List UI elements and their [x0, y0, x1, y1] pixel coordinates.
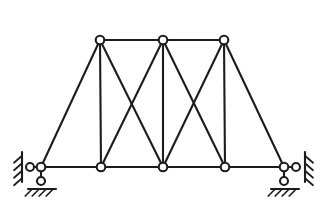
support-hatch-line: [305, 178, 313, 185]
support-hatch-line: [305, 171, 313, 178]
support-hatch-line: [305, 156, 313, 163]
truss-joint-L1: [97, 163, 106, 172]
truss-diagram-canvas: [0, 0, 329, 221]
truss-joint-RL: [26, 163, 34, 171]
support-hatch-line: [14, 163, 22, 170]
truss-joint-L2: [159, 163, 168, 172]
members-layer: [41, 40, 284, 167]
truss-joint-PR: [280, 177, 288, 185]
support-hatch-line: [14, 171, 22, 178]
truss-member-end-post-right: [224, 40, 284, 167]
support-hatch-line: [14, 156, 22, 163]
support-hatch-line: [14, 178, 22, 185]
truss-joint-U1: [96, 36, 105, 45]
truss-figure: [0, 0, 329, 221]
truss-joint-L0: [37, 163, 46, 172]
truss-joint-RR: [292, 163, 300, 171]
truss-joint-L4: [280, 163, 289, 172]
truss-joint-U2: [159, 36, 168, 45]
truss-member-vertical-U1-L1: [100, 40, 101, 167]
truss-joint-PL: [37, 177, 45, 185]
truss-joint-L3: [221, 163, 230, 172]
truss-member-vertical-U3-L3: [224, 40, 225, 167]
support-hatch-line: [305, 163, 313, 170]
truss-joint-U3: [220, 36, 229, 45]
truss-member-end-post-left: [41, 40, 100, 167]
